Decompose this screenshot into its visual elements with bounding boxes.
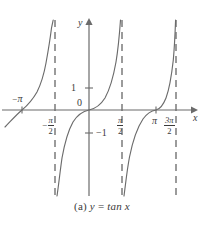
y-tick-label-neg-1: −1 <box>96 128 107 138</box>
figure-tan-graph: y x 0 1 −1 −π − π 2 π 2 π 3π 2 <box>0 0 204 228</box>
y-tick-label-1: 1 <box>71 83 76 93</box>
minus-sign: − <box>42 121 47 130</box>
fraction-denominator: 2 <box>48 127 54 136</box>
caption-equals: = <box>98 200 104 212</box>
caption-lhs: y <box>90 200 95 212</box>
fraction-numerator: π <box>48 116 54 125</box>
pi-glyph: π <box>18 93 23 104</box>
fraction: 3π 2 <box>164 116 175 135</box>
fraction-denominator: 2 <box>164 127 175 136</box>
figure-caption: (a) y = tan x <box>0 200 204 212</box>
fraction-numerator: 3π <box>164 116 175 125</box>
caption-prefix: (a) <box>74 200 87 212</box>
curve-group <box>5 20 176 196</box>
fraction: π 2 <box>117 116 123 135</box>
fraction: π 2 <box>48 116 54 135</box>
asymptote-group <box>55 20 176 196</box>
x-tick-label-pi: π <box>152 116 157 126</box>
tan-branch-right <box>124 20 176 196</box>
origin-label: 0 <box>77 98 82 108</box>
x-tick-label-neg-pi-over-2: − π 2 <box>42 116 54 135</box>
minus-sign: − <box>12 95 17 104</box>
x-tick-label-3pi-over-2: 3π 2 <box>164 116 175 135</box>
y-axis-label: y <box>78 18 82 28</box>
fraction-denominator: 2 <box>117 127 123 136</box>
x-tick-label-pi-over-2: π 2 <box>117 116 123 135</box>
plot-canvas <box>0 0 204 228</box>
x-tick-label-neg-pi: −π <box>12 94 23 104</box>
y-axis-arrowhead <box>85 18 92 25</box>
caption-rhs: tan x <box>107 200 130 212</box>
x-axis-label: x <box>193 113 197 123</box>
tan-branch-left <box>5 20 53 127</box>
axis-group <box>2 18 198 196</box>
fraction-numerator: π <box>117 116 123 125</box>
